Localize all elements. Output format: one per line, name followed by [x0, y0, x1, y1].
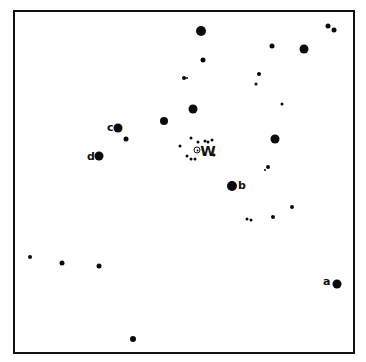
field-star — [332, 28, 337, 33]
field-star — [255, 83, 258, 86]
comparison-star-label-d: d — [87, 151, 95, 162]
comparison-star-c — [114, 124, 123, 133]
field-star — [326, 24, 331, 29]
field-star — [250, 219, 253, 222]
field-star — [130, 336, 136, 342]
field-star — [196, 26, 206, 36]
comparison-star-d — [95, 152, 104, 161]
field-star — [124, 137, 129, 142]
field-star — [257, 72, 261, 76]
chart-frame — [13, 10, 355, 354]
field-star — [160, 117, 168, 125]
field-star — [179, 145, 182, 148]
field-star — [189, 105, 198, 114]
field-star — [186, 155, 189, 158]
field-star — [264, 169, 266, 171]
field-star — [201, 58, 206, 63]
field-star — [281, 103, 284, 106]
comparison-star-label-b: b — [238, 180, 246, 191]
field-star — [271, 215, 275, 219]
field-star — [211, 139, 214, 142]
field-star — [97, 264, 102, 269]
field-star — [300, 45, 309, 54]
field-star — [271, 135, 280, 144]
comparison-star-b — [227, 181, 237, 191]
field-star — [186, 77, 188, 79]
field-star — [246, 218, 249, 221]
field-star — [60, 261, 65, 266]
field-star — [290, 205, 294, 209]
field-star — [190, 158, 193, 161]
comparison-star-label-c: c — [107, 122, 114, 133]
field-star — [190, 137, 193, 140]
field-star — [194, 158, 197, 161]
comparison-star-a — [333, 280, 342, 289]
field-star — [28, 255, 32, 259]
field-star — [270, 44, 275, 49]
target-star-label: W — [200, 143, 215, 159]
field-star — [197, 141, 200, 144]
field-star — [266, 165, 270, 169]
comparison-star-label-a: a — [323, 276, 330, 287]
